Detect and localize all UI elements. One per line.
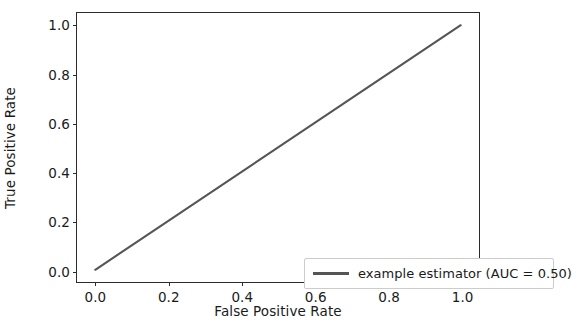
y-axis-label-text: True Positive Rate — [2, 86, 18, 208]
y-tick-mark — [73, 75, 77, 76]
legend-entry-label: example estimator (AUC = 0.50) — [358, 266, 572, 281]
plot-axes: 0.00.20.40.60.81.0 0.00.20.40.60.81.0 ex… — [76, 12, 480, 283]
y-tick-mark — [73, 222, 77, 223]
legend-line-sample — [313, 272, 349, 274]
series-group — [95, 25, 460, 270]
y-tick-mark — [73, 124, 77, 125]
y-tick-label: 0.6 — [48, 116, 70, 132]
x-axis-label: False Positive Rate — [76, 303, 480, 319]
x-tick-mark — [95, 282, 96, 286]
y-tick-mark — [73, 272, 77, 273]
y-tick-label: 1.0 — [48, 17, 70, 33]
y-axis-label: True Positive Rate — [0, 12, 20, 283]
y-tick-mark — [73, 25, 77, 26]
y-tick-label: 0.4 — [48, 165, 70, 181]
x-tick-mark — [242, 282, 243, 286]
plot-canvas — [77, 13, 479, 282]
roc-line-example-estimator — [95, 25, 460, 270]
y-tick-mark — [73, 173, 77, 174]
legend-box[interactable]: example estimator (AUC = 0.50) — [304, 258, 554, 289]
y-tick-label: 0.0 — [48, 264, 70, 280]
y-tick-label: 0.2 — [48, 214, 70, 230]
y-tick-label: 0.8 — [48, 67, 70, 83]
x-tick-mark — [169, 282, 170, 286]
